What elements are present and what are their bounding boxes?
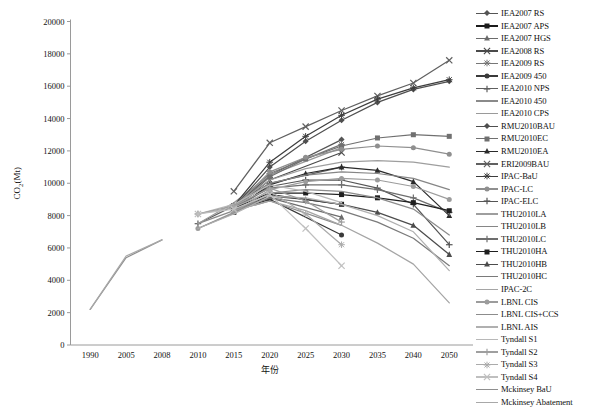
legend-item[interactable]: THU2010LA [476, 208, 603, 221]
legend-marker-icon [476, 83, 498, 95]
legend-marker-icon [476, 384, 498, 396]
legend-item[interactable]: IEA2007 HGS [476, 32, 603, 45]
y-tick-label: 2000 [48, 308, 65, 318]
chart-series [195, 191, 345, 268]
legend-marker-icon [476, 195, 498, 207]
legend-item[interactable]: RMU2010EA [476, 145, 603, 158]
legend-item-label: IEA2007 APS [501, 20, 549, 33]
x-tick-label: 2008 [154, 350, 171, 360]
legend-item-label: RMU2010BAU [501, 120, 555, 133]
legend-item[interactable]: IPAC-ELC [476, 195, 603, 208]
legend-item[interactable]: THU2010LC [476, 233, 603, 246]
legend-item[interactable]: IEA2010 CPS [476, 107, 603, 120]
legend-item[interactable]: RMU2010BAU [476, 120, 603, 133]
legend-item[interactable]: Tyndall S3 [476, 358, 603, 371]
legend-item[interactable]: THU2010HA [476, 245, 603, 258]
legend-item[interactable]: Mckinsey BaU [476, 383, 603, 396]
legend-item-label: IEA2007 RS [501, 7, 544, 20]
legend-item[interactable]: RMU2010EC [476, 132, 603, 145]
legend-marker-icon [476, 20, 498, 32]
legend-item[interactable]: THU2010HC [476, 270, 603, 283]
legend-marker-icon [476, 233, 498, 245]
legend-item-label: IEA2009 450 [501, 70, 546, 83]
y-axis: 0200040006000800010000120001400016000180… [43, 17, 70, 351]
legend-item[interactable]: THU2010HB [476, 258, 603, 271]
legend-item-label: THU2010LB [501, 220, 546, 233]
chart-series-layer [90, 57, 452, 309]
chart-legend: IEA2007 RSIEA2007 APSIEA2007 HGSIEA2008 … [476, 7, 603, 379]
legend-item-label: RMU2010EA [501, 145, 548, 158]
legend-marker-icon [476, 296, 498, 308]
y-tick-label: 12000 [43, 146, 64, 156]
legend-item[interactable]: IEA2010 450 [476, 95, 603, 108]
x-tick-label: 2035 [369, 350, 386, 360]
legend-item-label: THU2010HA [501, 245, 547, 258]
legend-marker-icon [476, 45, 498, 57]
x-tick-label: 2030 [333, 350, 350, 360]
chart-series [90, 240, 162, 310]
legend-item-label: THU2010HC [501, 270, 547, 283]
legend-item-label: IEA2009 RS [501, 57, 544, 70]
x-axis-title: 年份 [261, 364, 279, 375]
legend-item[interactable]: IPAC-BaU [476, 170, 603, 183]
legend-item[interactable]: THU2010LB [476, 220, 603, 233]
legend-item[interactable]: Tyndall S2 [476, 346, 603, 359]
legend-item-label: RMU2010EC [501, 132, 548, 145]
legend-item[interactable]: IPAC-2C [476, 283, 603, 296]
legend-item-label: IPAC-LC [501, 183, 533, 196]
legend-item-label: IEA2010 450 [501, 95, 546, 108]
legend-marker-icon [476, 108, 498, 120]
legend-marker-icon [476, 7, 498, 19]
y-tick-label: 20000 [43, 17, 64, 27]
x-tick-label: 2025 [297, 350, 314, 360]
legend-item-label: IPAC-2C [501, 283, 532, 296]
legend-item[interactable]: IEA2009 450 [476, 70, 603, 83]
y-tick-label: 8000 [48, 211, 65, 221]
legend-item-label: Mckinsey BaU [501, 383, 552, 396]
legend-marker-icon [476, 120, 498, 132]
legend-marker-icon [476, 283, 498, 295]
legend-marker-icon [476, 183, 498, 195]
legend-item-label: THU2010HB [501, 258, 547, 271]
legend-item[interactable]: IEA2007 RS [476, 7, 603, 20]
y-tick-label: 14000 [43, 114, 64, 124]
legend-item-label: THU2010LA [501, 208, 546, 221]
legend-marker-icon [476, 145, 498, 157]
legend-item[interactable]: ERI2009BAU [476, 158, 603, 171]
x-tick-label: 2010 [189, 350, 206, 360]
legend-item[interactable]: IEA2009 RS [476, 57, 603, 70]
legend-item[interactable]: IEA2010 NPS [476, 82, 603, 95]
legend-item[interactable]: LBNL AIS [476, 321, 603, 334]
legend-item-label: IEA2007 HGS [501, 32, 551, 45]
y-tick-label: 0 [60, 340, 64, 350]
legend-item[interactable]: IEA2008 RS [476, 45, 603, 58]
legend-item[interactable]: Tyndall S4 [476, 371, 603, 384]
legend-marker-icon [476, 133, 498, 145]
legend-marker-icon [476, 271, 498, 283]
legend-marker-icon [476, 346, 498, 358]
y-tick-label: 4000 [48, 275, 65, 285]
legend-item-label: IPAC-BaU [501, 170, 538, 183]
legend-item-label: Tyndall S4 [501, 371, 537, 384]
legend-marker-icon [476, 70, 498, 82]
legend-item[interactable]: Mckinsey Abatement [476, 396, 603, 409]
legend-item-label: ERI2009BAU [501, 158, 549, 171]
legend-item-label: THU2010LC [501, 233, 546, 246]
legend-item-label: LBNL CIS+CCS [501, 308, 559, 321]
legend-item[interactable]: LBNL CIS [476, 296, 603, 309]
legend-item[interactable]: IEA2007 APS [476, 20, 603, 33]
legend-item-label: IEA2010 NPS [501, 82, 549, 95]
legend-marker-icon [476, 95, 498, 107]
legend-marker-icon [476, 258, 498, 270]
legend-marker-icon [476, 221, 498, 233]
chart-series [90, 240, 162, 310]
legend-item[interactable]: Tyndall S1 [476, 333, 603, 346]
legend-marker-icon [476, 32, 498, 44]
legend-item-label: Tyndall S1 [501, 333, 537, 346]
legend-item[interactable]: LBNL CIS+CCS [476, 308, 603, 321]
legend-item[interactable]: IPAC-LC [476, 183, 603, 196]
y-tick-label: 6000 [48, 243, 65, 253]
legend-item-label: Mckinsey Abatement [501, 396, 572, 409]
y-tick-label: 10000 [43, 178, 64, 188]
